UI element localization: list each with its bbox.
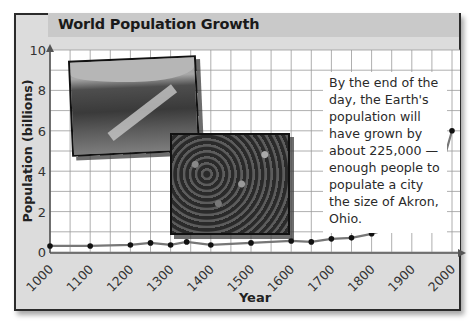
x-tick-label: 1900 (385, 261, 418, 294)
data-point (349, 235, 355, 241)
x-tick-label: 1800 (345, 261, 378, 294)
y-tick-label: 2 (38, 205, 46, 220)
data-point (309, 239, 315, 245)
data-point (288, 238, 294, 244)
crowd-photo (170, 133, 290, 235)
x-tick-label: 1200 (103, 261, 136, 294)
x-tick-label: 2000 (425, 261, 458, 294)
data-point (128, 242, 134, 248)
y-axis-arrow-icon (46, 44, 54, 52)
x-tick-label: 1100 (63, 261, 96, 294)
data-point (208, 242, 214, 248)
caption-text: By the end of the day, the Earth's popul… (323, 72, 447, 233)
y-tick-label: 0 (38, 245, 46, 260)
x-tick-label: 1300 (144, 261, 177, 294)
x-tick-label: 1000 (23, 261, 56, 294)
x-axis-arrow-icon (458, 249, 466, 257)
x-tick-label: 1400 (184, 261, 217, 294)
x-axis-title: Year (238, 290, 272, 305)
y-tick-label: 10 (29, 43, 46, 58)
road (108, 84, 178, 141)
sky (70, 57, 195, 84)
y-tick-label: 8 (38, 83, 46, 98)
data-point (449, 128, 455, 134)
y-axis-title: Population (billions) (20, 80, 35, 223)
data-point (248, 240, 254, 246)
x-tick-label: 1700 (304, 261, 337, 294)
y-tick-label: 6 (38, 124, 46, 139)
data-point (148, 240, 154, 246)
data-point (329, 236, 335, 242)
data-point (87, 243, 93, 249)
data-point (168, 242, 174, 248)
y-tick-label: 4 (38, 164, 46, 179)
data-point (47, 243, 53, 249)
data-point (184, 239, 190, 245)
